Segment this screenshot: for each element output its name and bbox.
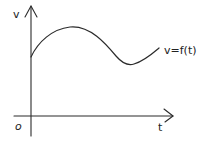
curve-label: v=f(t): [164, 44, 197, 57]
x-axis-label: t: [158, 121, 163, 134]
x-axis: [14, 109, 173, 122]
y-axis-label: v: [13, 8, 20, 21]
function-curve: [31, 27, 159, 65]
function-graph: v v=f(t) o t: [0, 0, 215, 149]
origin-label: o: [15, 120, 22, 133]
